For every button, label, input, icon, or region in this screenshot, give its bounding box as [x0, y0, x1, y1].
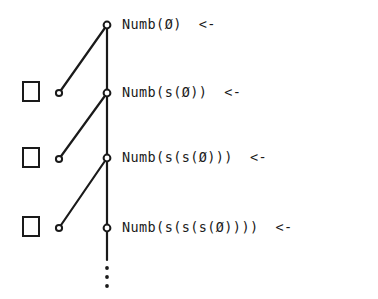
- leaf-node[interactable]: [56, 90, 62, 96]
- goal-boxes: [23, 82, 39, 236]
- goal-box[interactable]: [23, 217, 39, 236]
- branch-edge: [59, 158, 107, 228]
- spine-node[interactable]: [104, 22, 111, 29]
- vertical-ellipsis-icon: [105, 266, 109, 288]
- ellipsis-dot: [105, 266, 109, 270]
- spine-node[interactable]: [104, 90, 111, 97]
- ellipsis-dot: [105, 284, 109, 288]
- ellipsis-dot: [105, 275, 109, 279]
- goal-box[interactable]: [23, 148, 39, 167]
- diagram-canvas: Numb(Ø) <- Numb(s(Ø)) <- Numb(s(s(Ø))) <…: [0, 0, 378, 299]
- spine-node[interactable]: [104, 225, 111, 232]
- branch-edge: [59, 25, 107, 93]
- numb-tree-graphic: [0, 0, 378, 299]
- branch-edge: [59, 93, 107, 159]
- leaf-nodes: [56, 90, 62, 231]
- leaf-node[interactable]: [56, 156, 62, 162]
- leaf-node[interactable]: [56, 225, 62, 231]
- spine-node[interactable]: [104, 155, 111, 162]
- goal-box[interactable]: [23, 82, 39, 101]
- branch-edges: [59, 25, 107, 228]
